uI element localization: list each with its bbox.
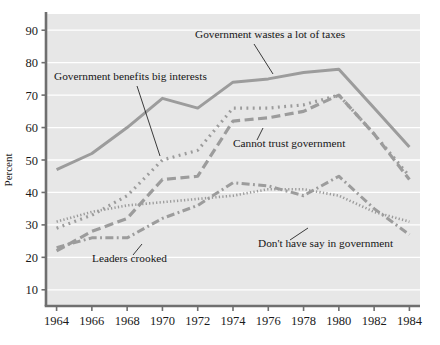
y-axis-title: Percent	[2, 154, 14, 187]
x-tick-label: 1964	[44, 314, 70, 328]
y-tick-label: 20	[26, 251, 39, 265]
series-annotation: Government benefits big interests	[54, 70, 207, 82]
x-tick-label: 1966	[79, 314, 104, 328]
series-annotation: Leaders crooked	[92, 252, 167, 264]
x-tick-label: 1974	[221, 314, 247, 328]
series-annotation: Don't have say in government	[258, 237, 394, 249]
x-tick-label: 1968	[115, 314, 140, 328]
y-tick-label: 50	[26, 154, 39, 168]
x-tick-label: 1970	[150, 314, 175, 328]
y-axis-label: Percent	[2, 154, 14, 187]
y-tick-label: 10	[26, 283, 39, 297]
y-tick-label: 30	[26, 218, 39, 232]
x-tick-label: 1976	[256, 314, 281, 328]
chart-canvas: 102030405060708090 196419661968197019721…	[0, 0, 440, 345]
series-annotation: Government wastes a lot of taxes	[195, 28, 345, 40]
x-tick-label: 1978	[291, 314, 316, 328]
y-tick-label: 70	[26, 89, 39, 103]
x-tick-label: 1984	[397, 314, 423, 328]
y-tick-label: 40	[26, 186, 39, 200]
y-tick-label: 90	[26, 24, 39, 38]
series-annotation: Cannot trust government	[233, 137, 346, 149]
x-tick-label: 1972	[185, 314, 210, 328]
y-tick-label: 60	[26, 121, 39, 135]
line-chart: 102030405060708090 196419661968197019721…	[0, 0, 440, 345]
x-tick-label: 1980	[326, 314, 351, 328]
x-tick-label: 1982	[362, 314, 387, 328]
y-tick-label: 80	[26, 56, 39, 70]
